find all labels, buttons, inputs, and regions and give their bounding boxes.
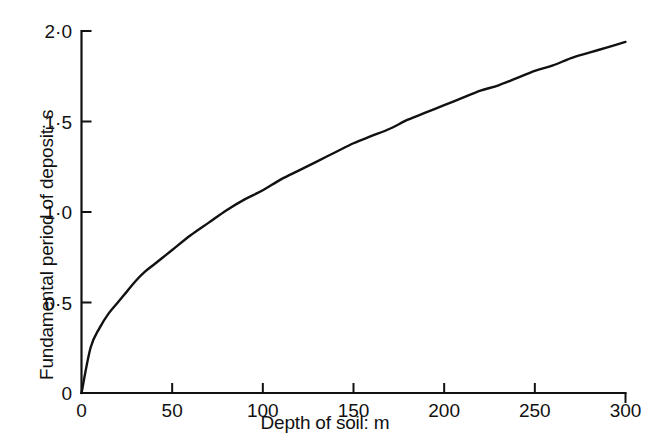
axis-lines [82, 31, 626, 393]
y-tick-label: 0 [10, 384, 72, 403]
y-tick-label: 2·0 [10, 22, 72, 41]
chart-figure: 00·51·01·52·0 050100150200250300 Depth o… [0, 0, 650, 442]
x-axis-title: Depth of soil: m [0, 412, 650, 434]
data-series-group [82, 42, 626, 393]
data-curve [82, 42, 626, 393]
plot-area [0, 0, 650, 442]
y-axis-title: Fundamental period of deposit: s [36, 110, 58, 380]
y-tick-marks [82, 31, 92, 303]
